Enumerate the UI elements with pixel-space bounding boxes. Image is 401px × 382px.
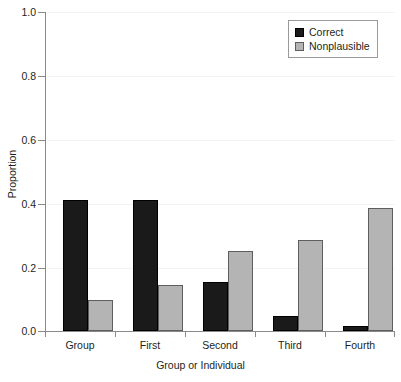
y-axis-tick-label: 0.2 [2,263,36,274]
y-axis-tick-label: 0.0 [2,326,36,337]
bar-second-correct [203,282,228,331]
gridline [46,204,395,205]
x-axis-tick [115,331,116,337]
y-axis-tick [38,12,45,13]
x-axis-tick-label: Fourth [325,340,395,351]
legend-item-correct: Correct [295,25,370,39]
bar-chart: 1.0 0.8 0.6 0.4 0.2 0.0 Group First Seco… [0,0,401,382]
x-axis-tick-label: Second [185,340,255,351]
bar-group-correct [63,200,88,331]
x-axis-tick-label: First [115,340,185,351]
legend-item-nonplausible: Nonplausible [295,39,370,53]
gridline [46,12,395,13]
x-axis-tick [255,331,256,337]
y-axis-line [45,12,46,332]
bar-first-correct [133,200,158,331]
x-axis-tick-label: Third [255,340,325,351]
bar-third-correct [273,316,298,331]
bar-group-nonplausible [88,300,113,331]
legend-label: Nonplausible [309,41,370,52]
x-axis-tick [185,331,186,337]
gridline [46,268,395,269]
x-axis-tick [45,331,46,337]
y-axis-tick [38,76,45,77]
gridline [46,76,395,77]
legend-swatch-icon [295,42,304,51]
x-axis-tick [325,331,326,337]
y-axis-tick [38,140,45,141]
x-axis-tick [394,331,395,337]
legend-swatch-icon [295,28,304,37]
x-axis-line [45,331,395,332]
y-axis-tick-label: 0.8 [2,71,36,82]
x-axis-tick-label: Group [45,340,115,351]
legend-label: Correct [309,27,343,38]
y-axis-tick [38,268,45,269]
y-axis-tick [38,204,45,205]
x-axis-title: Group or Individual [0,359,401,371]
gridline [46,140,395,141]
y-axis-title: Proportion [6,134,18,214]
bar-first-nonplausible [158,285,183,331]
legend: Correct Nonplausible [288,20,378,58]
y-axis-tick-label: 1.0 [2,7,36,18]
y-axis-tick [38,331,45,332]
bar-fourth-nonplausible [368,208,393,331]
bar-third-nonplausible [298,240,323,331]
bar-fourth-correct [343,326,368,331]
bar-second-nonplausible [228,251,253,331]
